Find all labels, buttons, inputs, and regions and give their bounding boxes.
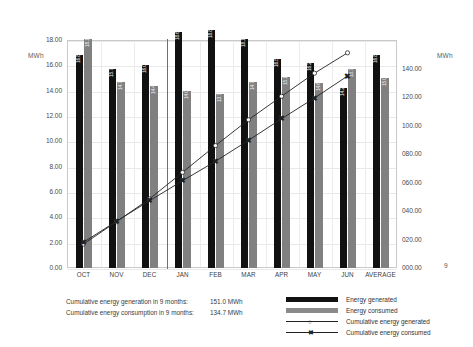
circle-marker-icon bbox=[213, 143, 217, 147]
cross-marker-icon: ✖ bbox=[212, 157, 219, 166]
circle-marker-icon bbox=[180, 170, 184, 174]
legend-label: Energy generated bbox=[346, 296, 397, 303]
note-consumption-value: 134.7 MWh bbox=[210, 307, 243, 318]
cross-marker-icon: ✖ bbox=[308, 329, 314, 337]
circle-marker-icon: ○ bbox=[308, 318, 312, 326]
circle-marker-icon bbox=[345, 51, 349, 55]
legend-item[interactable]: Energy consumed bbox=[286, 305, 431, 316]
legend-key bbox=[286, 294, 338, 305]
note-consumption-label: Cumulative energy consumption in 9 month… bbox=[66, 307, 204, 318]
note-consumption: Cumulative energy consumption in 9 month… bbox=[66, 307, 243, 318]
legend-item[interactable]: Energy generated bbox=[286, 294, 431, 305]
note-generation-label: Cumulative energy generation in 9 months… bbox=[66, 296, 204, 307]
corner-note: 9 bbox=[444, 262, 448, 269]
cross-marker-icon: ✖ bbox=[245, 136, 252, 145]
summary-notes: Cumulative energy generation in 9 months… bbox=[66, 296, 243, 318]
legend-item[interactable]: ✖Cumulative energy consumed bbox=[286, 327, 431, 338]
legend-swatch bbox=[286, 297, 338, 302]
cross-marker-icon: ✖ bbox=[278, 114, 285, 123]
cross-marker-icon: ✖ bbox=[179, 176, 186, 185]
cross-marker-icon: ✖ bbox=[113, 217, 120, 226]
cross-marker-icon: ✖ bbox=[146, 196, 153, 205]
cumulative-line bbox=[84, 53, 348, 244]
legend-key bbox=[286, 305, 338, 316]
legend-line bbox=[286, 321, 338, 322]
legend-label: Cumulative energy generated bbox=[346, 318, 430, 325]
circle-marker-icon bbox=[312, 71, 316, 75]
legend-item[interactable]: ○Cumulative energy generated bbox=[286, 316, 431, 327]
chart-legend: Energy generatedEnergy consumed○Cumulati… bbox=[286, 294, 431, 338]
legend-label: Cumulative energy consumed bbox=[346, 329, 431, 336]
cross-marker-icon: ✖ bbox=[344, 72, 351, 81]
note-generation-value: 151.0 MWh bbox=[210, 296, 243, 307]
legend-key: ○ bbox=[286, 316, 338, 327]
legend-swatch bbox=[286, 308, 338, 313]
circle-marker-icon bbox=[246, 118, 250, 122]
legend-label: Energy consumed bbox=[346, 307, 398, 314]
legend-key: ✖ bbox=[286, 327, 338, 338]
cross-marker-icon: ✖ bbox=[80, 238, 87, 247]
cross-marker-icon: ✖ bbox=[311, 94, 318, 103]
note-generation: Cumulative energy generation in 9 months… bbox=[66, 296, 243, 307]
energy-chart: MWh MWh 18.0016.0014.0012.0010.008.006.0… bbox=[0, 0, 473, 347]
circle-marker-icon bbox=[279, 94, 283, 98]
